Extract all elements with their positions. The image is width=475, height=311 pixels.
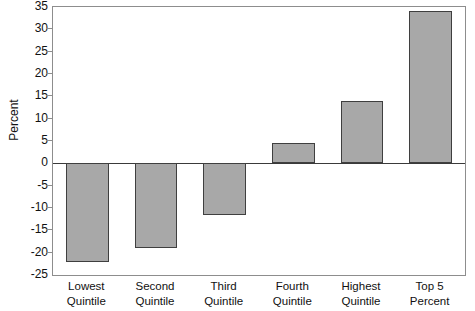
- y-axis-tick-label: 25: [14, 45, 48, 57]
- x-axis-category-label: ThirdQuintile: [189, 279, 258, 309]
- x-axis-category-label: LowestQuintile: [52, 279, 121, 309]
- bar: [409, 11, 452, 163]
- y-axis-tick-label: 35: [14, 0, 48, 12]
- bar: [341, 101, 384, 164]
- y-axis-tick-label: 20: [14, 67, 48, 79]
- y-axis-tick-label: 0: [14, 156, 48, 168]
- bar: [272, 143, 315, 163]
- y-axis-tick-label: -10: [14, 201, 48, 213]
- zero-baseline: [53, 163, 465, 164]
- bar: [66, 163, 109, 261]
- plot-area: [52, 6, 466, 276]
- x-axis-category-label: HighestQuintile: [327, 279, 396, 309]
- y-axis-tick-label: -5: [14, 179, 48, 191]
- y-axis-tick-label: 30: [14, 22, 48, 34]
- y-axis-tick-label: 5: [14, 134, 48, 146]
- y-axis-tick-label: 10: [14, 112, 48, 124]
- x-axis-category-labels: LowestQuintileSecondQuintileThirdQuintil…: [52, 279, 466, 311]
- y-axis-tick-label: -15: [14, 223, 48, 235]
- bar: [203, 163, 246, 214]
- x-axis-category-label: FourthQuintile: [258, 279, 327, 309]
- x-axis-category-label: SecondQuintile: [121, 279, 190, 309]
- bar: [135, 163, 178, 248]
- y-axis-tick-labels: 35302520151050-5-10-15-20-25: [14, 0, 48, 311]
- y-axis-tick-label: -20: [14, 246, 48, 258]
- x-axis-category-label: Top 5Percent: [395, 279, 464, 309]
- bar-chart: Percent 35302520151050-5-10-15-20-25 Low…: [0, 0, 475, 311]
- y-axis-tick-label: -25: [14, 268, 48, 280]
- y-axis-tick-label: 15: [14, 89, 48, 101]
